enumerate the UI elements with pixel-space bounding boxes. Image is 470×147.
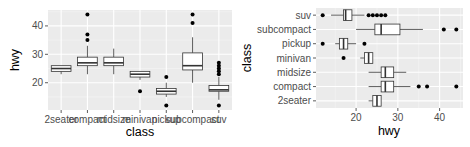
left-y-axis-title: hwy	[8, 48, 22, 71]
outlier-point	[191, 21, 195, 25]
x-tick-label: suv	[211, 114, 227, 125]
right-y-axis: suvsubcompactpickupminivanmidsizecompact…	[257, 10, 316, 107]
outlier-point	[85, 13, 89, 17]
right-x-axis-title: hwy	[378, 124, 401, 138]
outlier-point	[454, 27, 458, 31]
left-boxplot-chart: 203040 2seatercompactmidsizeminivanpicku…	[8, 10, 232, 139]
outlier-point	[379, 13, 383, 17]
outlier-point	[85, 38, 89, 42]
outlier-point	[425, 85, 429, 89]
right-y-axis-title: class	[240, 44, 254, 72]
right-x-axis: 203040	[351, 108, 446, 123]
y-tick-label: 20	[32, 77, 44, 88]
outlier-point	[367, 13, 371, 17]
y-tick-label: 2seater	[278, 95, 312, 106]
box-iqr	[344, 10, 352, 21]
y-tick-label: suv	[295, 10, 311, 21]
outlier-point	[383, 13, 387, 17]
y-tick-label: pickup	[282, 38, 311, 49]
left-x-axis-title: class	[126, 125, 154, 139]
box-iqr	[183, 53, 203, 70]
y-tick-label: 40	[32, 20, 44, 31]
figure: 203040 2seatercompactmidsizeminivanpicku…	[0, 0, 470, 147]
outlier-point	[217, 103, 221, 107]
y-tick-label: minivan	[277, 53, 311, 64]
outlier-point	[191, 13, 195, 17]
outlier-point	[138, 89, 142, 93]
x-tick-label: 30	[392, 112, 404, 123]
y-tick-label: subcompact	[257, 24, 311, 35]
left-y-axis: 203040	[32, 20, 48, 88]
box-iqr	[375, 24, 400, 35]
outlier-point	[442, 27, 446, 31]
outlier-point	[85, 32, 89, 36]
box-iqr	[381, 81, 394, 92]
outlier-point	[454, 85, 458, 89]
x-tick-label: 40	[434, 112, 446, 123]
left-x-axis: 2seatercompactmidsizeminivanpickupsubcom…	[44, 110, 226, 125]
outlier-point	[375, 13, 379, 17]
outlier-point	[371, 13, 375, 17]
y-tick-label: 30	[32, 49, 44, 60]
box-iqr	[381, 67, 394, 78]
x-tick-label: 20	[351, 112, 363, 123]
outlier-point	[342, 56, 346, 60]
outlier-point	[321, 42, 325, 46]
outlier-point	[417, 85, 421, 89]
box-iqr	[78, 57, 98, 66]
outlier-point	[362, 42, 366, 46]
right-boxplot-chart: suvsubcompactpickupminivanmidsizecompact…	[240, 8, 463, 138]
outlier-point	[321, 13, 325, 17]
outlier-point	[164, 103, 168, 107]
y-tick-label: midsize	[277, 67, 311, 78]
outlier-point	[217, 61, 221, 65]
outlier-point	[164, 75, 168, 79]
box-iqr	[104, 57, 124, 66]
y-tick-label: compact	[273, 81, 311, 92]
